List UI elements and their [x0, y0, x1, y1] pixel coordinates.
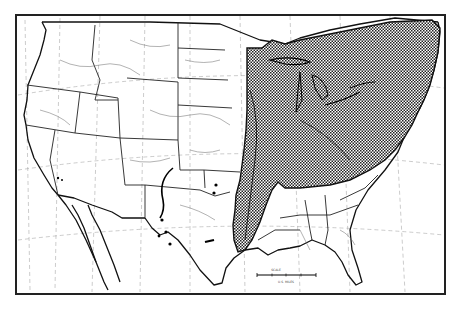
- scale-bar: SCALE U.S. MILES: [257, 268, 316, 284]
- outlier-records: [57, 168, 218, 246]
- range-shaded-area: [233, 20, 440, 252]
- scale-label: SCALE: [271, 268, 281, 272]
- scale-units: U.S. MILES: [278, 280, 294, 284]
- range-map: SCALE U.S. MILES: [0, 0, 459, 309]
